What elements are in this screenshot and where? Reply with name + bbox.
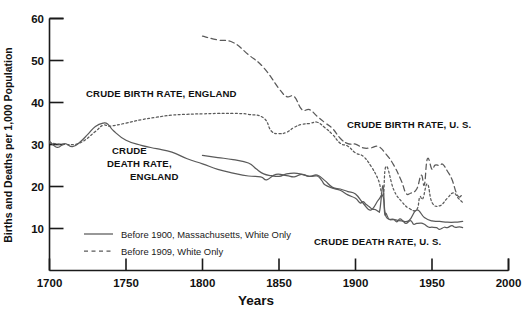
annotation-death-rate-england-line1: CRUDE xyxy=(112,145,147,156)
x-axis-ticks xyxy=(50,259,509,271)
series-crude-death-rate-england xyxy=(50,123,463,223)
births-deaths-line-chart: 60 50 40 30 20 10 1700 1750 1800 1850 19… xyxy=(0,0,523,311)
y-tick-label-10: 10 xyxy=(31,223,44,235)
x-tick-label-1700: 1700 xyxy=(37,277,63,289)
y-tick-label-20: 20 xyxy=(31,181,44,193)
y-axis-ticks xyxy=(50,19,64,229)
y-tick-label-40: 40 xyxy=(31,97,44,109)
y-tick-label-60: 60 xyxy=(31,13,44,25)
annotation-death-rate-england-line3: ENGLAND xyxy=(130,171,179,182)
x-tick-label-2000: 2000 xyxy=(496,277,522,289)
y-tick-label-30: 30 xyxy=(31,139,44,151)
x-axis-title: Years xyxy=(238,293,274,308)
y-tick-label-50: 50 xyxy=(31,55,44,67)
x-tick-label-1750: 1750 xyxy=(113,277,139,289)
chart-annotations: CRUDE BIRTH RATE, ENGLAND CRUDE DEATH RA… xyxy=(86,88,471,247)
x-tick-label-1800: 1800 xyxy=(190,277,216,289)
series-crude-birth-rate-us xyxy=(203,36,463,197)
legend-label-white-only: Before 1909, White Only xyxy=(121,246,223,257)
y-axis-tick-labels: 60 50 40 30 20 10 xyxy=(31,13,44,235)
annotation-death-rate-us: CRUDE DEATH RATE, U. S. xyxy=(314,236,441,247)
x-axis-tick-labels: 1700 1750 1800 1850 1900 1950 2000 xyxy=(37,277,522,289)
annotation-death-rate-england-line2: DEATH RATE, xyxy=(107,158,172,169)
chart-legend: Before 1900, Massachusetts, White Only B… xyxy=(84,229,291,257)
annotation-birth-rate-england: CRUDE BIRTH RATE, ENGLAND xyxy=(86,88,237,99)
x-tick-label-1950: 1950 xyxy=(419,277,445,289)
chart-series-group xyxy=(50,36,463,229)
series-crude-death-rate-us xyxy=(203,155,463,229)
chart-page: 60 50 40 30 20 10 1700 1750 1800 1850 19… xyxy=(0,0,523,311)
x-tick-label-1850: 1850 xyxy=(266,277,292,289)
annotation-birth-rate-us: CRUDE BIRTH RATE, U. S. xyxy=(347,119,471,130)
x-tick-label-1900: 1900 xyxy=(343,277,369,289)
y-axis-title: Births and Deaths per 1,000 Population xyxy=(2,47,14,242)
legend-label-massachusetts: Before 1900, Massachusetts, White Only xyxy=(121,229,291,240)
